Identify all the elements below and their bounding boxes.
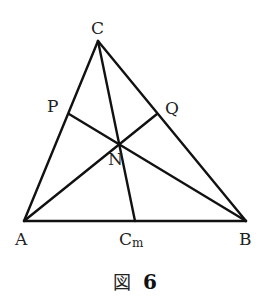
segment-b-p xyxy=(69,114,246,221)
label-p: P xyxy=(47,96,58,116)
side-ca xyxy=(24,41,98,221)
label-q: Q xyxy=(165,98,179,118)
figure-caption-number: 6 xyxy=(143,270,157,294)
figure-caption-prefix: 図 xyxy=(113,272,131,293)
label-a: A xyxy=(14,229,28,249)
label-b: B xyxy=(239,229,252,249)
side-bc xyxy=(98,41,246,221)
label-c: C xyxy=(91,18,104,38)
segment-a-q xyxy=(24,114,157,221)
triangle-diagram: C P Q N A B Cm 図 6 xyxy=(0,0,271,305)
label-n: N xyxy=(108,149,123,169)
segment-c-cm xyxy=(98,41,135,221)
label-cm-main: C xyxy=(119,229,132,249)
label-cm-subscript: m xyxy=(132,236,144,250)
label-cm: Cm xyxy=(119,229,144,250)
